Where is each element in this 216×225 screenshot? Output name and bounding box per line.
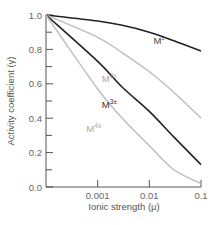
y-axis: 0.00.20.40.60.81.0	[29, 10, 53, 193]
series-line-M2±	[46, 15, 201, 118]
series-label: M4±	[86, 122, 102, 134]
y-axis-title: Activity coefficient (γ)	[5, 56, 16, 145]
x-axis-title: Ionic strength (μ)	[88, 201, 159, 212]
series-labels: M±M2±M3±M4±	[86, 34, 165, 134]
x-axis: 0.0010.010.1	[46, 180, 208, 201]
y-tick-label: 0.0	[29, 182, 42, 193]
series-line-M3±	[46, 15, 201, 165]
y-tick-label: 0.2	[29, 147, 42, 158]
x-tick-label: 0.1	[194, 190, 207, 201]
series-line-M4±	[46, 15, 201, 184]
series-line-M±	[46, 15, 201, 51]
series-label: M±	[153, 34, 165, 46]
chart: 0.00.20.40.60.81.0 0.0010.010.1 M±M2±M3±…	[0, 0, 216, 225]
plot-lines	[46, 15, 201, 184]
series-label: M3±	[102, 98, 118, 110]
y-tick-label: 1.0	[29, 10, 42, 21]
y-tick-label: 0.8	[29, 44, 42, 55]
x-tick-label: 0.001	[86, 190, 110, 201]
y-tick-label: 0.4	[29, 113, 42, 124]
x-tick-label: 0.01	[140, 190, 159, 201]
series-label: M2±	[102, 72, 118, 84]
y-tick-label: 0.6	[29, 78, 42, 89]
